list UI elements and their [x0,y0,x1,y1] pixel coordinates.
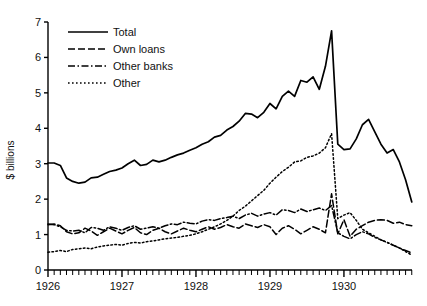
y-tick-label: 2 [35,193,41,205]
y-tick-label: 3 [35,158,41,170]
chart-background [0,0,427,306]
chart-container: 01234567 19261927192819291930 TotalOwn l… [0,0,427,306]
y-tick-label: 4 [35,122,41,134]
x-tick-label: 1928 [184,280,208,292]
y-tick-label: 6 [35,51,41,63]
y-tick-label: 5 [35,87,41,99]
legend-label-total: Total [113,26,136,38]
x-tick-label: 1927 [110,280,134,292]
line-chart: 01234567 19261927192819291930 TotalOwn l… [0,0,427,306]
y-tick-label: 7 [35,16,41,28]
legend-label-other: Other [113,77,141,89]
x-tick-label: 1926 [36,280,60,292]
y-tick-label: 0 [35,264,41,276]
x-tick-label: 1930 [332,280,356,292]
y-tick-label: 1 [35,229,41,241]
legend-label-other-banks: Other banks [113,60,173,72]
y-axis-title: $ billions [5,141,16,180]
x-tick-label: 1929 [258,280,282,292]
legend-label-own-loans: Own loans [113,43,165,55]
